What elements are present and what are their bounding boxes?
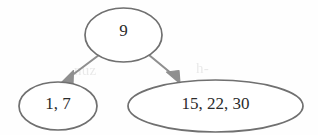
edge-root-to-left-line <box>71 55 99 76</box>
node-root-label: 9 <box>85 21 162 41</box>
node-left-child-label: 1, 7 <box>19 94 97 114</box>
node-right-child-label: 15, 22, 30 <box>128 94 303 114</box>
tree-diagram-canvas: nuz h- 9 1, 7 15, 22, 30 <box>0 0 318 135</box>
edge-root-to-right-arrowhead <box>167 71 181 84</box>
